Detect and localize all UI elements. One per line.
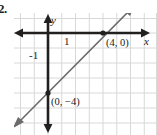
y-axis-arrow-down — [44, 124, 53, 133]
x-axis-arrow-left — [14, 29, 23, 38]
y-axis-label: y — [51, 15, 56, 26]
point-4-0-dot — [100, 30, 105, 35]
tick-label-negative-one: -1 — [29, 50, 38, 61]
point-label-0-neg4: (0, −4) — [51, 97, 80, 108]
point-0-neg4-dot — [45, 90, 50, 95]
figure-container: 2. — [0, 0, 157, 135]
point-label-4-0: (4, 0) — [106, 38, 129, 49]
graph-plate: y x 1 -1 (4, 0) (0, −4) — [14, 13, 157, 135]
coordinate-plane-svg — [14, 13, 157, 135]
problem-number-label: 2. — [0, 2, 7, 15]
tick-label-positive-one: 1 — [64, 36, 70, 47]
x-axis-label: x — [144, 36, 149, 47]
grid-lines — [14, 13, 157, 135]
